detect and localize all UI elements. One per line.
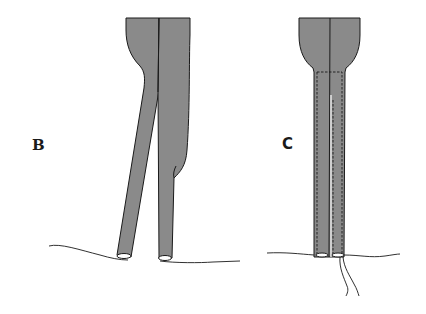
panel-b-right-strand xyxy=(158,18,190,258)
panel-b: B xyxy=(32,18,240,263)
panel-b-right-end xyxy=(159,256,172,261)
panel-b-left-strand xyxy=(117,18,159,257)
panel-c: C xyxy=(267,18,400,296)
panel-c-left-end xyxy=(316,253,328,257)
panel-b-left-end xyxy=(117,254,131,259)
figure-canvas: B C xyxy=(0,0,426,314)
panel-b-label: B xyxy=(32,136,45,154)
panel-b-ground-line xyxy=(49,245,240,262)
panel-c-right-end xyxy=(332,253,344,257)
panel-c-label: C xyxy=(282,135,293,153)
panel-c-thread-2 xyxy=(343,257,359,296)
